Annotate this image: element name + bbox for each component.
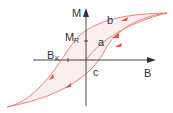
coercivity-label: B — [47, 49, 54, 61]
arrow-a2 — [115, 43, 122, 47]
x-axis-arrow-icon — [147, 57, 156, 63]
curve-label-a: a — [98, 36, 105, 48]
coercivity-subscript: K — [55, 55, 60, 62]
remanence-label: M — [65, 31, 74, 43]
remanence-subscript: R — [74, 37, 79, 44]
y-axis-arrow-icon — [83, 8, 89, 17]
y-axis-label: M — [72, 7, 81, 19]
curve-label-b: b — [107, 14, 113, 26]
curve-label-c: c — [93, 66, 99, 78]
x-axis-label: B — [144, 67, 151, 79]
hysteresis-diagram: M B M R B K a b c — [0, 0, 173, 113]
